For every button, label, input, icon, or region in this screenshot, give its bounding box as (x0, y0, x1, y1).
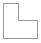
l-shape-svg (0, 0, 41, 43)
icon-canvas (0, 0, 41, 43)
